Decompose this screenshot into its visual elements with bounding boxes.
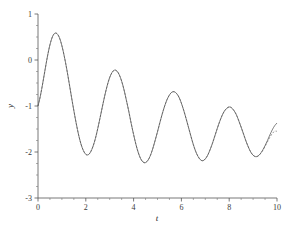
x-tick-label: 8 [227,203,231,212]
y-tick-label: -3 [25,194,32,203]
series-dashed-curve [38,33,277,163]
y-axis-group: 10-1-2-3 [25,10,38,203]
y-axis-title: y [5,104,15,109]
series-solid-curve [38,33,277,163]
y-tick-label: -1 [25,102,32,111]
x-axis-tick-labels: 0246810 [36,203,281,212]
y-axis-major-ticks [35,14,39,198]
y-tick-label: 1 [28,10,32,19]
x-axis-title: t [156,213,159,223]
x-tick-label: 2 [84,203,88,212]
damped-oscillation-chart: 10-1-2-3 0246810 t y [0,0,293,234]
x-tick-label: 0 [36,203,40,212]
series-group [38,33,277,163]
chart-figure: 10-1-2-3 0246810 t y [0,0,293,234]
x-tick-label: 10 [273,203,281,212]
y-axis-tick-labels: 10-1-2-3 [25,10,32,203]
y-tick-label: 0 [28,56,32,65]
y-tick-label: -2 [25,148,32,157]
x-axis-group: 0246810 [36,198,281,212]
x-tick-label: 6 [179,203,183,212]
x-tick-label: 4 [132,203,136,212]
